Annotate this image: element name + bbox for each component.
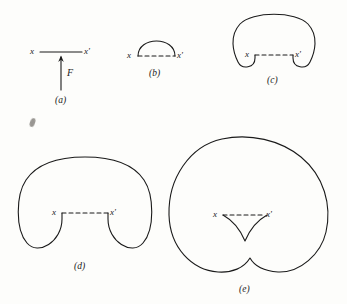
force-label: F	[67, 68, 73, 78]
panel-e-right-label: x'	[266, 210, 272, 219]
panel-b-drawing	[138, 41, 175, 56]
panel-e-left-label: x	[213, 210, 217, 219]
panel-a-drawing	[40, 52, 82, 90]
panel-a-left-label: x	[30, 47, 34, 56]
panel-d-caption: (d)	[74, 262, 85, 272]
panel-b-left-label: x	[127, 51, 131, 60]
panel-d-curve	[18, 157, 152, 248]
panel-c-left-label: x	[245, 50, 249, 59]
panel-d-left-label: x	[52, 208, 56, 217]
panel-c-curve	[233, 14, 315, 67]
panel-e-drawing	[169, 137, 328, 272]
panel-a-caption: (a)	[55, 96, 66, 106]
panel-a-right-label: x'	[84, 47, 90, 56]
panel-c-drawing	[233, 14, 315, 67]
panel-d-drawing	[18, 157, 152, 248]
panel-e-caption: (e)	[239, 285, 250, 295]
panel-c-right-label: x'	[295, 50, 301, 59]
panel-e-inner-cusp	[223, 215, 267, 241]
figure-canvas	[0, 0, 347, 304]
figure-page: x x' F (a) x x' (b) x x' (c) x x' (d) x …	[0, 0, 347, 304]
panel-d-right-label: x'	[110, 208, 116, 217]
panel-b-caption: (b)	[149, 69, 160, 79]
panel-b-curve	[138, 41, 175, 56]
panel-b-right-label: x'	[177, 51, 183, 60]
panel-c-caption: (c)	[267, 76, 278, 86]
panel-e-outer-curve	[169, 137, 328, 272]
